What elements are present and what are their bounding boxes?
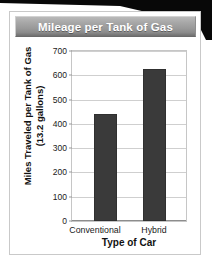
chart-card: Mileage per Tank of Gas Miles Traveled p… [9, 11, 201, 255]
ytick-label-400: 400 [53, 119, 72, 129]
gridline-400 [72, 124, 186, 125]
bar-hybrid [143, 69, 166, 221]
plot-area: 700 600 500 400 300 200 100 0 [71, 50, 187, 222]
ytick-label-500: 500 [53, 95, 72, 105]
xtick-label-conventional: Conventional [69, 225, 120, 235]
gridline-700 [72, 51, 186, 52]
gridline-500 [72, 100, 186, 101]
page-root: Mileage per Tank of Gas Miles Traveled p… [0, 0, 212, 266]
gridline-300 [72, 148, 186, 149]
xtick-label-hybrid: Hybrid [141, 225, 166, 235]
ytick-label-300: 300 [53, 143, 72, 153]
chart-area: Miles Traveled per Tank of Gas (13.2 gal… [10, 39, 200, 254]
ytick-label-100: 100 [53, 192, 72, 202]
axis-baseline [72, 220, 186, 221]
y-axis-label-line1: Miles Traveled per Tank of Gas [22, 47, 34, 186]
chart-title: Mileage per Tank of Gas [38, 21, 173, 33]
gridline-600 [72, 75, 186, 76]
bar-conventional [94, 114, 117, 221]
ytick-label-700: 700 [53, 46, 72, 56]
chart-title-banner: Mileage per Tank of Gas [15, 16, 196, 37]
y-axis-label: Miles Traveled per Tank of Gas (13.2 gal… [19, 40, 49, 192]
y-axis-label-line2: (13.2 gallons) [34, 86, 46, 147]
gridline-200 [72, 172, 186, 173]
ytick-label-600: 600 [53, 70, 72, 80]
x-axis-label: Type of Car [71, 237, 187, 248]
gridline-100 [72, 197, 186, 198]
ytick-label-200: 200 [53, 167, 72, 177]
